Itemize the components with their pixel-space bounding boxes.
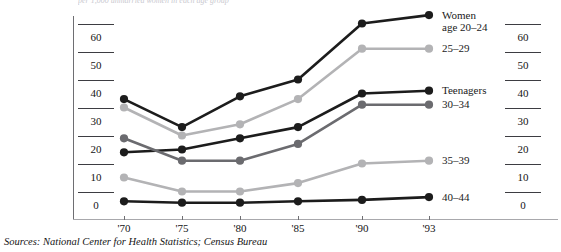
series-line [124, 161, 429, 192]
series-data-point [178, 145, 186, 153]
series-data-point [358, 89, 366, 97]
series-data-point [120, 134, 128, 142]
series-data-point [294, 123, 302, 131]
series-data-point [425, 45, 433, 53]
series-data-point [236, 187, 244, 195]
series-data-point [120, 173, 128, 181]
series-data-point [178, 123, 186, 131]
series-data-point [294, 75, 302, 83]
series-data-point [294, 179, 302, 187]
series-data-point [120, 148, 128, 156]
series-label-40-44: 40–44 [442, 191, 470, 204]
series-data-point [120, 95, 128, 103]
series-data-point [425, 157, 433, 165]
series-label-teenagers: Teenagers [442, 84, 486, 97]
series-data-point [236, 120, 244, 128]
series-data-point [358, 19, 366, 27]
chart-figure: per 1,000 unmarried women in each age gr… [0, 0, 561, 252]
series-data-point [236, 134, 244, 142]
series-data-point [294, 197, 302, 205]
series-label-women-age-20-24: Women age 20–24 [442, 9, 488, 34]
series-line [124, 197, 429, 203]
series-line [124, 15, 429, 127]
series-data-point [178, 131, 186, 139]
series-data-point [294, 140, 302, 148]
series-data-point [425, 11, 433, 19]
series-data-point [120, 103, 128, 111]
series-label-35-39: 35–39 [442, 154, 470, 167]
series-data-point [178, 199, 186, 207]
series-layer [0, 0, 561, 252]
series-data-point [120, 197, 128, 205]
series-data-point [425, 87, 433, 95]
series-data-point [358, 159, 366, 167]
source-note: Sources: National Center for Health Stat… [4, 236, 267, 248]
series-data-point [178, 157, 186, 165]
series-data-point [425, 193, 433, 201]
series-line [124, 105, 429, 161]
series-label-30-34: 30–34 [442, 98, 470, 111]
series-label-25-29: 25–29 [442, 42, 470, 55]
series-data-point [358, 45, 366, 53]
series-data-point [236, 157, 244, 165]
series-data-point [236, 92, 244, 100]
series-data-point [358, 101, 366, 109]
series-data-point [294, 95, 302, 103]
series-data-point [178, 187, 186, 195]
series-data-point [425, 101, 433, 109]
series-data-point [236, 199, 244, 207]
series-data-point [358, 196, 366, 204]
